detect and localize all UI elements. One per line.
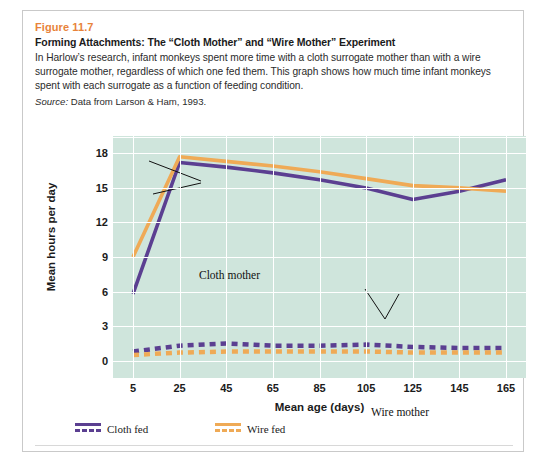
annotation-wire-mother: Wire mother bbox=[371, 406, 429, 418]
y-axis-tick-label: 6 bbox=[75, 286, 108, 298]
y-axis-tick-label: 18 bbox=[75, 147, 108, 159]
legend-divider bbox=[35, 445, 513, 446]
chart: Mean hours per day 0369121518 5254565851… bbox=[23, 119, 523, 453]
x-axis-tick-labels: 525456585105125145165 bbox=[113, 382, 526, 400]
annotation-leader-line bbox=[365, 289, 385, 319]
y-axis-tick-label: 9 bbox=[75, 251, 108, 263]
gridline-vertical bbox=[180, 136, 181, 378]
y-axis-tick-label: 3 bbox=[75, 320, 108, 332]
annotation-cloth-mother: Cloth mother bbox=[199, 269, 260, 281]
gridline-vertical bbox=[273, 136, 274, 378]
caption-line-2: surrogate mother, regardless of which on… bbox=[35, 65, 513, 79]
legend-swatch-cloth-fed bbox=[75, 422, 101, 435]
legend-swatch-wire-fed bbox=[215, 422, 241, 435]
x-axis-tick-label: 105 bbox=[357, 382, 375, 394]
gridline-vertical bbox=[506, 136, 507, 378]
y-axis-tick-label: 15 bbox=[75, 182, 108, 194]
caption-line-1: In Harlow’s research, infant monkeys spe… bbox=[35, 51, 513, 65]
gridline-vertical bbox=[459, 136, 460, 378]
chart-legend: Cloth fed Wire fed bbox=[75, 422, 505, 442]
figure-number: Figure 11.7 bbox=[35, 21, 513, 33]
x-axis-tick-label: 165 bbox=[497, 382, 515, 394]
legend-item-wire-fed: Wire fed bbox=[215, 422, 285, 435]
x-axis-tick-label: 65 bbox=[267, 382, 279, 394]
gridline-vertical bbox=[226, 136, 227, 378]
plot-area bbox=[113, 136, 526, 378]
y-axis-title: Mean hours per day bbox=[45, 167, 57, 307]
figure-caption-block: Figure 11.7 Forming Attachments: The “Cl… bbox=[35, 21, 513, 107]
y-axis-tick-labels: 0369121518 bbox=[75, 136, 108, 378]
x-axis-tick-label: 5 bbox=[130, 382, 136, 394]
x-axis-tick-label: 145 bbox=[450, 382, 468, 394]
legend-label-wire-fed: Wire fed bbox=[247, 423, 285, 435]
gridline-vertical bbox=[366, 136, 367, 378]
y-axis-tick-label: 0 bbox=[75, 355, 108, 367]
gridline-vertical bbox=[133, 136, 134, 378]
x-axis-title: Mean age (days) bbox=[113, 401, 526, 413]
source-label: Source: bbox=[35, 96, 68, 107]
figure-source: Source: Data from Larson & Ham, 1993. bbox=[35, 96, 513, 107]
annotation-leader-line bbox=[385, 294, 399, 319]
y-axis-tick-label: 12 bbox=[75, 216, 108, 228]
x-axis-tick-label: 125 bbox=[404, 382, 422, 394]
legend-item-cloth-fed: Cloth fed bbox=[75, 422, 148, 435]
gridline-vertical bbox=[320, 136, 321, 378]
x-axis-tick-label: 45 bbox=[220, 382, 232, 394]
figure-title: Forming Attachments: The “Cloth Mother” … bbox=[35, 36, 513, 48]
x-axis-tick-label: 25 bbox=[174, 382, 186, 394]
x-axis-tick-label: 85 bbox=[313, 382, 325, 394]
figure-card: Figure 11.7 Forming Attachments: The “Cl… bbox=[22, 10, 524, 452]
legend-label-cloth-fed: Cloth fed bbox=[107, 423, 148, 435]
gridline-vertical bbox=[413, 136, 414, 378]
caption-line-3: spent with each surrogate as a function … bbox=[35, 79, 513, 93]
source-text: Data from Larson & Ham, 1993. bbox=[68, 96, 206, 107]
